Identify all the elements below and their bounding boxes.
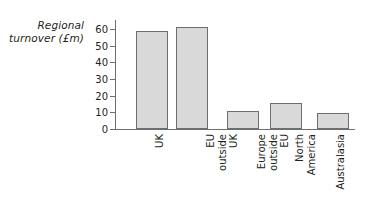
y-axis-label: Regional turnover (£m) xyxy=(0,19,84,45)
y-axis-label-line2: turnover (£m) xyxy=(9,32,84,44)
bar-2 xyxy=(176,27,208,130)
y-axis-label-line1: Regional xyxy=(37,19,84,31)
y-axis-spine xyxy=(115,20,116,130)
x-axis-label-1: UK xyxy=(154,134,166,148)
y-tick-mark xyxy=(110,112,115,113)
y-tick-mark xyxy=(110,62,115,63)
x-label-text: UK xyxy=(154,134,166,148)
bar-1 xyxy=(136,31,168,129)
y-tick-label: 50 xyxy=(95,40,108,51)
y-tick-mark xyxy=(110,46,115,47)
x-axis-label-2: EU outside UK xyxy=(205,134,240,171)
x-axis-label-5: Australasia xyxy=(335,134,347,190)
bar-chart-figure: Regional turnover (£m) 0102030405060 UKE… xyxy=(0,0,385,207)
x-label-text: North America xyxy=(294,134,317,175)
x-label-text: Europe outside EU xyxy=(256,134,291,171)
plot-area: 0102030405060 xyxy=(115,20,355,130)
bar-3 xyxy=(227,111,259,129)
y-tick-label: 40 xyxy=(95,57,108,68)
x-axis-label-3: Europe outside EU xyxy=(256,134,291,171)
y-tick-label: 0 xyxy=(102,124,108,135)
y-tick-label: 60 xyxy=(95,23,108,34)
y-tick-label: 30 xyxy=(95,73,108,84)
x-label-text: Australasia xyxy=(335,134,347,190)
y-tick-label: 10 xyxy=(95,107,108,118)
y-tick-mark xyxy=(110,29,115,30)
bar-5 xyxy=(317,113,349,130)
x-axis-label-4: North America xyxy=(294,134,317,175)
y-tick-mark xyxy=(110,96,115,97)
y-tick-mark xyxy=(110,79,115,80)
bar-4 xyxy=(270,103,302,130)
y-tick-label: 20 xyxy=(95,90,108,101)
y-tick-mark xyxy=(110,129,115,130)
x-label-text: EU outside UK xyxy=(205,134,240,171)
